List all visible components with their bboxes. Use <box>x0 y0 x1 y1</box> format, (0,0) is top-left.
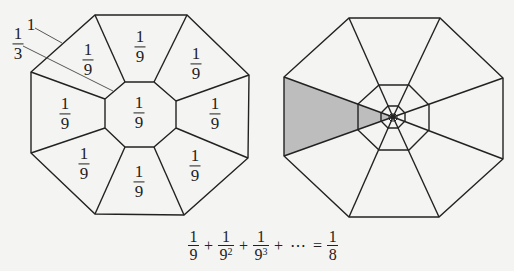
term-3: 193 <box>253 229 269 262</box>
plus-sign: + <box>272 237 285 255</box>
inner-side-length-label: 13 <box>13 25 24 62</box>
numerator: 1 <box>222 229 230 244</box>
side-label-leader <box>35 28 62 43</box>
right-octagon <box>284 18 503 217</box>
numerator: 1 <box>135 94 144 111</box>
ellipsis: ⋯ <box>288 236 308 255</box>
region-fraction-left: 19 <box>60 95 71 132</box>
denominator: 9 <box>190 247 198 262</box>
exponent: 3 <box>263 246 268 257</box>
numerator: 1 <box>192 45 201 62</box>
region-fraction-top: 19 <box>135 28 146 65</box>
region-fraction-top-left: 19 <box>83 41 94 78</box>
denominator: 9 <box>192 66 201 83</box>
region-fraction-bottom-left: 19 <box>79 145 90 182</box>
term-1: 19 <box>188 229 199 262</box>
numerator: 1 <box>135 163 144 180</box>
plus-sign: + <box>237 237 250 255</box>
side-length-label: 1 <box>27 15 36 35</box>
plus-sign: + <box>202 237 215 255</box>
denominator: 9 <box>84 62 93 79</box>
denominator: 9 <box>61 116 70 133</box>
region-fraction-right: 19 <box>210 95 221 132</box>
denominator: 9 <box>135 184 144 201</box>
denominator: 8 <box>329 247 337 262</box>
denominator: 9 <box>135 115 144 132</box>
shaded-wedge <box>284 77 393 156</box>
numerator: 1 <box>211 95 220 112</box>
region-fraction-top-right: 19 <box>191 45 202 82</box>
numerator: 1 <box>84 41 93 58</box>
denominator: 3 <box>14 46 23 63</box>
leader-lines <box>23 28 113 91</box>
region-fraction-bottom-right: 19 <box>190 147 201 184</box>
denominator: 92 <box>220 247 233 262</box>
numerator: 1 <box>191 147 200 164</box>
center-fraction: 19 <box>134 94 145 131</box>
term-2: 192 <box>218 229 234 262</box>
denominator: 9 <box>211 116 220 133</box>
region-fraction-bottom: 19 <box>134 163 145 200</box>
denominator: 9 <box>136 49 145 66</box>
inner-side-label-leader <box>23 46 113 91</box>
equals-sign: = <box>311 237 324 255</box>
denominator: 9 <box>80 166 89 183</box>
center-point <box>391 115 396 120</box>
numerator: 1 <box>257 229 265 244</box>
denominator: 9 <box>191 168 200 185</box>
numerator: 1 <box>61 95 70 112</box>
numerator: 1 <box>136 28 145 45</box>
numerator: 1 <box>14 25 23 42</box>
numerator: 1 <box>329 229 337 244</box>
numerator: 1 <box>190 229 198 244</box>
exponent: 2 <box>228 246 233 257</box>
denominator: 93 <box>255 247 268 262</box>
numerator: 1 <box>80 145 89 162</box>
series-formula: 19 + 192 + 193 + ⋯ = 18 <box>188 229 338 262</box>
result-fraction: 18 <box>327 229 338 262</box>
